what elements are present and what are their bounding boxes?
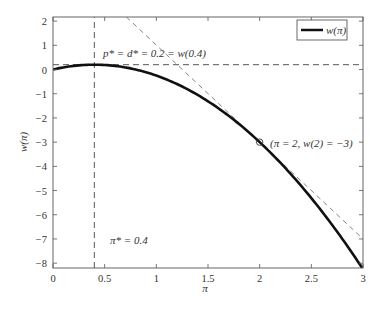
annotation-pi-star: π* = 0.4 — [110, 234, 148, 246]
x-axis-label: π — [202, 282, 208, 294]
x-tick-label: 0 — [50, 273, 55, 284]
y-axis-label: w(π) — [17, 132, 30, 153]
y-tick-label: −3 — [36, 137, 47, 148]
line-chart: 00.511.522.53210−1−2−3−4−5−6−7−8 p* = d*… — [0, 0, 381, 310]
y-tick-label: −7 — [36, 234, 47, 245]
annotation-point: (π = 2, w(2) = −3) — [270, 137, 353, 150]
x-tick-label: 2.5 — [305, 273, 318, 284]
y-tick-label: −6 — [36, 210, 47, 221]
x-tick-label: 1 — [154, 273, 159, 284]
y-tick-label: −8 — [36, 258, 47, 269]
x-tick-label: 2 — [257, 273, 262, 284]
annotation-optimum: p* = d* = 0.2 = w(0.4) — [102, 47, 206, 60]
chart-root: 00.511.522.53210−1−2−3−4−5−6−7−8 p* = d*… — [0, 0, 381, 310]
x-tick-label: 0.5 — [98, 273, 111, 284]
legend-label: w(π) — [326, 24, 347, 37]
x-tick-label: 3 — [360, 273, 365, 284]
y-tick-label: −4 — [36, 161, 48, 172]
y-tick-label: −5 — [36, 186, 47, 197]
y-tick-label: 1 — [42, 40, 47, 51]
y-tick-label: −1 — [36, 89, 47, 100]
curve-w-pi — [53, 65, 363, 270]
y-tick-label: −2 — [36, 113, 47, 124]
y-tick-label: 0 — [42, 65, 47, 76]
y-tick-label: 2 — [42, 16, 47, 27]
legend: w(π) — [297, 20, 347, 40]
